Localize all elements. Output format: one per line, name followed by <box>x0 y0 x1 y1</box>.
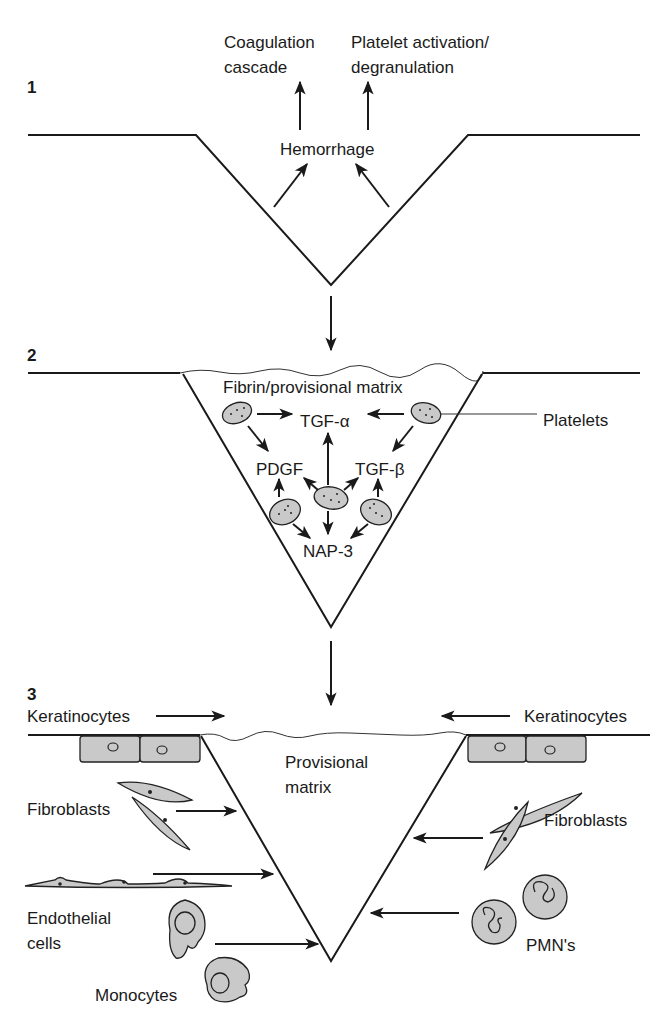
label-endothelial: Endothelial <box>27 909 111 928</box>
fibroblasts-left <box>118 782 192 850</box>
endothelial-cells <box>25 878 232 888</box>
stage-number-3: 3 <box>27 685 36 704</box>
fibroblasts-right <box>485 793 582 869</box>
label-pdgf: PDGF <box>256 460 303 479</box>
label-monocytes: Monocytes <box>95 986 177 1005</box>
arrow-left-to-nap3 <box>293 524 310 538</box>
stage-number-2: 2 <box>27 346 36 365</box>
label-fibroblasts-right: Fibroblasts <box>544 811 627 830</box>
provisional-matrix-surface <box>200 731 466 740</box>
wound-healing-diagram: 1 Coagulation cascade Platelet activatio… <box>0 0 666 1021</box>
label-hemorrhage: Hemorrhage <box>280 140 375 159</box>
label-fibroblasts-left: Fibroblasts <box>27 800 110 819</box>
platelet-center <box>312 484 349 512</box>
label-cascade: cascade <box>224 58 287 77</box>
platelet-top-left <box>219 398 254 427</box>
arrow-center-to-tgfb <box>344 478 358 490</box>
label-keratinocytes-left: Keratinocytes <box>27 707 130 726</box>
keratinocyte-cells-right <box>468 736 586 762</box>
arrow-center-to-pdgf <box>304 478 318 490</box>
stage-number-1: 1 <box>27 78 36 97</box>
stage-3: 3 Keratinocytes Keratinocytes Provisiona… <box>25 685 650 1005</box>
monocytes <box>169 900 249 1002</box>
label-degranulation: degranulation <box>351 58 454 77</box>
label-platelets: Platelets <box>543 411 608 430</box>
keratinocyte-cells-left <box>80 736 200 762</box>
arrow-left-to-hemorrhage <box>274 164 307 207</box>
stage-2: 2 Fibrin/provisional matrix TGF-α PDGF T… <box>27 346 640 627</box>
label-fibrin-matrix: Fibrin/provisional matrix <box>223 378 403 397</box>
platelet-top-right <box>409 399 443 426</box>
arrow-platelet-to-tgfb <box>393 426 413 451</box>
label-cells: cells <box>27 934 61 953</box>
label-tgf-alpha: TGF-α <box>300 412 350 431</box>
pmns <box>472 875 567 944</box>
arrow-right-to-hemorrhage <box>356 164 389 207</box>
label-keratinocytes-right: Keratinocytes <box>524 707 627 726</box>
label-pmns: PMN's <box>526 936 576 955</box>
platelet-bottom-right <box>356 494 395 529</box>
label-matrix: matrix <box>285 778 332 797</box>
label-provisional: Provisional <box>285 753 368 772</box>
arrow-platelet-to-pdgf <box>248 426 268 451</box>
label-tgf-beta: TGF-β <box>355 460 405 479</box>
stage-1: 1 Coagulation cascade Platelet activatio… <box>27 33 640 285</box>
label-coagulation: Coagulation <box>224 33 315 52</box>
label-platelet-activation: Platelet activation/ <box>351 33 489 52</box>
label-nap-3: NAP-3 <box>303 542 353 561</box>
arrow-right-to-nap3 <box>351 524 368 538</box>
